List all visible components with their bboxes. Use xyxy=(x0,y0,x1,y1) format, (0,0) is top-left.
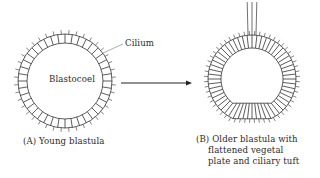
panel-b-caption-line-3: plate and ciliary tuft xyxy=(208,156,299,167)
panel-b-caption-line-2: flattened vegetal xyxy=(208,145,283,156)
cilium-label: Cilium xyxy=(125,38,154,49)
panel-a-caption: (A) Young blastula xyxy=(23,136,105,147)
panel-b-caption-line-1: (B) Older blastula with xyxy=(196,134,298,145)
blastocoel-label: Blastocoel xyxy=(49,74,95,85)
cilium-pointer-line xyxy=(103,44,123,53)
development-arrow xyxy=(121,81,192,86)
older-blastula-drawing xyxy=(204,2,300,123)
